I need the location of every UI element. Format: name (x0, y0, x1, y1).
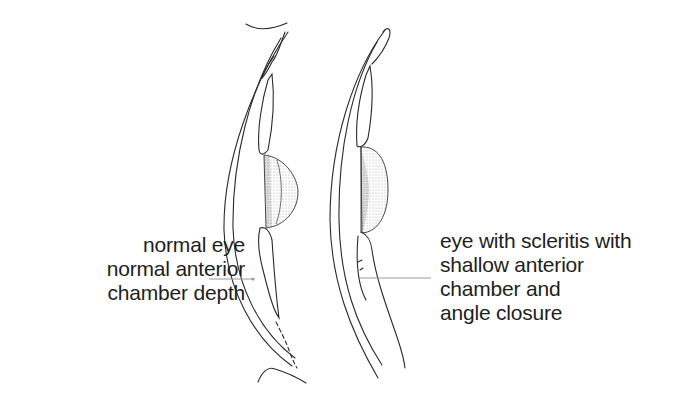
caption-line: normal eye (107, 233, 245, 257)
scleritis-eye-caption: eye with scleritis with shallow anterior… (440, 229, 631, 325)
eye-cross-section-drawing (0, 0, 693, 401)
diagram-canvas: normal eye normal anterior chamber depth… (0, 0, 693, 401)
caption-line: normal anterior (107, 257, 245, 281)
caption-line: shallow anterior (440, 253, 631, 277)
caption-line: chamber and (440, 277, 631, 301)
normal-eye-lens (264, 155, 298, 228)
scleritis-eye-lens (361, 147, 388, 233)
caption-line: angle closure (440, 301, 631, 325)
caption-line: eye with scleritis with (440, 229, 631, 253)
normal-eye-leader-dot (251, 277, 254, 280)
caption-line: chamber depth (107, 281, 245, 305)
normal-eye-caption: normal eye normal anterior chamber depth (107, 233, 245, 305)
